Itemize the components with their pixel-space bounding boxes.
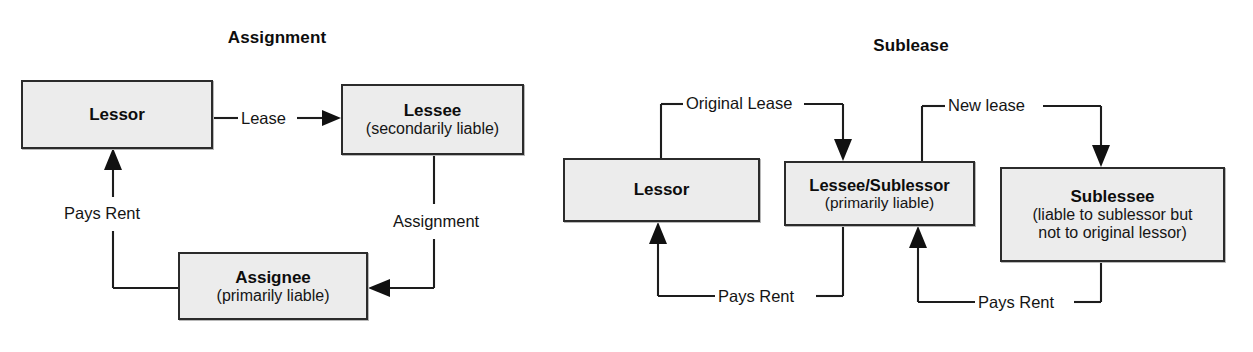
node-lessor-sublease-label: Lessor [634,180,690,199]
node-assignee[interactable]: Assignee (primarily liable) [178,252,368,320]
node-lessee-sublabel: (secondarily liable) [366,120,499,138]
edge-label-assignment: Assignment [390,213,482,230]
edge-paysrent1-arrowhead [649,222,667,244]
node-lessee-sublessor-sublabel: (primarily liable) [825,194,934,211]
panel-title-sublease: Sublease [811,36,1011,56]
edge-label-pays-rent-2: Pays Rent [975,294,1057,311]
edge-label-original-lease: Original Lease [683,95,795,112]
edge-label-lease: Lease [238,110,289,127]
edge-lease-arrowhead [322,110,341,126]
node-lessor-label: Lessor [89,105,145,124]
edge-label-pays-rent: Pays Rent [61,205,143,222]
edge-assignment-arrowhead [368,279,390,297]
node-assignee-sublabel: (primarily liable) [217,287,330,305]
node-lessee-label: Lessee [404,101,462,120]
panel-title-assignment: Assignment [177,28,377,48]
node-assignee-label: Assignee [235,268,311,287]
edge-newlease-arrowhead [1092,145,1110,167]
node-lessor-sublease[interactable]: Lessor [563,158,760,222]
node-lessee-sublessor[interactable]: Lessee/Sublessor (primarily liable) [784,161,975,226]
node-sublessee[interactable]: Sublessee (liable to sublessor but not t… [1000,167,1225,262]
edge-paysrent-arrowhead [104,148,122,170]
diagram-canvas: Assignment Lessor Lessee (secondarily li… [0,0,1253,352]
edge-paysrent2-arrowhead [909,226,927,248]
node-sublessee-sublabel-line1: (liable to sublessor but [1032,206,1192,224]
node-lessor[interactable]: Lessor [21,80,213,149]
node-lessee-sublessor-label: Lessee/Sublessor [809,176,949,194]
node-sublessee-sublabel-line2: not to original lessor) [1038,224,1187,242]
node-sublessee-label: Sublessee [1070,187,1154,206]
edge-label-new-lease: New lease [945,97,1028,114]
edge-originallease-arrowhead [834,139,852,161]
edge-label-pays-rent-1: Pays Rent [715,288,797,305]
node-lessee[interactable]: Lessee (secondarily liable) [341,84,524,155]
